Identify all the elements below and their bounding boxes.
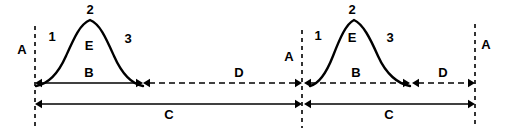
dim-d-left-arrowhead-end bbox=[295, 79, 302, 87]
dim-c-right-arrowhead-end bbox=[468, 100, 475, 108]
fall-label-right: 3 bbox=[386, 30, 393, 45]
dim-d-left-label: D bbox=[234, 65, 243, 80]
dim-c-right-arrowhead-start bbox=[304, 100, 311, 108]
axis-right-label: A bbox=[481, 37, 491, 52]
axis-left-label: A bbox=[17, 42, 27, 57]
dim-c-left-arrowhead-start bbox=[35, 100, 42, 108]
dim-c-left-label: C bbox=[164, 107, 174, 122]
dim-b-left-label: B bbox=[84, 65, 93, 80]
peak-label-left: 2 bbox=[86, 2, 93, 17]
diagram-canvas: AAA123E123EBDCBDC bbox=[0, 0, 505, 133]
fall-label-left: 3 bbox=[124, 31, 131, 46]
rise-label-right: 1 bbox=[314, 28, 321, 43]
dim-d-right-arrowhead-end bbox=[468, 79, 475, 87]
dim-d-right-arrowhead-start bbox=[412, 79, 419, 87]
dim-b-right-arrowhead-start bbox=[304, 79, 311, 87]
dim-c-right-label: C bbox=[384, 107, 394, 122]
peak-label-right: 2 bbox=[348, 2, 355, 17]
dimension-arrows bbox=[35, 79, 475, 108]
axis-middle-label: A bbox=[284, 49, 294, 64]
waveform-dimension-diagram: AAA123E123EBDCBDC bbox=[0, 0, 505, 133]
dim-b-right-label: B bbox=[351, 65, 360, 80]
dim-c-left-arrowhead-end bbox=[295, 100, 302, 108]
area-label-left: E bbox=[85, 38, 94, 53]
rise-label-left: 1 bbox=[48, 29, 55, 44]
axis-marker-lines bbox=[35, 24, 475, 128]
dim-d-right-label: D bbox=[438, 65, 447, 80]
area-label-right: E bbox=[348, 30, 357, 45]
